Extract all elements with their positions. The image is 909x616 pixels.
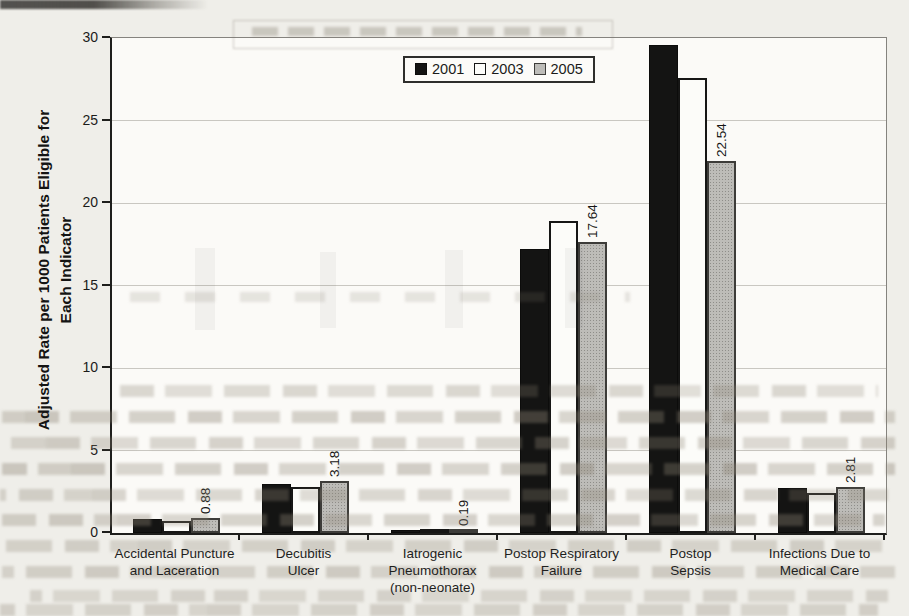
category-label-0: Accidental Punctureand Laceration (100, 545, 250, 579)
bar-2005-2 (449, 529, 478, 533)
bleed-through-text-artifact (2, 463, 895, 475)
plot-area: 0.883.180.1917.6422.542.81 (110, 37, 887, 535)
bar-label-2005-4: 22.54 (714, 123, 729, 157)
bleed-through-shape-artifact (195, 248, 215, 330)
bar-2001-4 (649, 45, 678, 533)
legend-swatch-2001-icon (415, 63, 427, 75)
bleed-through-text-artifact (0, 604, 878, 616)
category-label-2: IatrogenicPneumothorax(non-neonate) (358, 545, 508, 596)
bar-2001-2 (391, 530, 420, 533)
bar-2005-4 (707, 161, 736, 533)
gridline-10 (112, 368, 886, 369)
category-label-5: Infections Due toMedical Care (745, 545, 895, 579)
bleed-through-shape-artifact (252, 27, 582, 36)
legend-label-2001: 2001 (432, 61, 464, 77)
scan-edge-smudge (0, 0, 208, 9)
bleed-through-shape-artifact (320, 252, 336, 328)
y-axis-title-line2: Each Indicator (55, 60, 77, 480)
bleed-through-shape-artifact (565, 248, 583, 328)
scanned-figure-page: Adjusted Rate per 1000 Patients Eligible… (0, 0, 909, 616)
bleed-through-shape-artifact (445, 250, 463, 328)
legend-item-2005: 2005 (534, 61, 583, 77)
bar-label-2005-3: 17.64 (585, 204, 600, 238)
legend-item-2003: 2003 (474, 61, 523, 77)
bleed-through-text-artifact (0, 489, 888, 501)
chart-legend: 2001 2003 2005 (403, 56, 595, 83)
y-tick-30 (102, 36, 110, 38)
legend-item-2001: 2001 (415, 61, 464, 77)
bleed-through-shape-artifact (130, 292, 630, 302)
category-label-4: PostopSepsis (616, 545, 766, 579)
legend-swatch-2003-icon (474, 63, 486, 75)
gridline-5 (112, 450, 886, 451)
y-tick-20 (102, 201, 110, 203)
y-tick-0 (102, 531, 110, 533)
legend-label-2005: 2005 (551, 61, 583, 77)
y-tick-10 (102, 366, 110, 368)
gridline-15 (112, 285, 886, 286)
category-label-3: Postop RespiratoryFailure (487, 545, 637, 579)
y-tick-label-0: 0 (56, 524, 98, 540)
gridline-25 (112, 120, 886, 121)
y-tick-15 (102, 284, 110, 286)
bleed-through-text-artifact (0, 437, 895, 449)
gridline-20 (112, 203, 886, 204)
y-axis-title-line1: Adjusted Rate per 1000 Patients Eligible… (33, 60, 55, 480)
y-tick-25 (102, 119, 110, 121)
bleed-through-text-artifact (2, 514, 885, 526)
y-tick-label-30: 30 (56, 29, 98, 45)
legend-swatch-2005-icon (534, 63, 546, 75)
category-label-1: DecubitisUlcer (229, 545, 379, 579)
legend-label-2003: 2003 (491, 61, 523, 77)
bleed-through-text-artifact (2, 411, 895, 423)
bar-2003-2 (420, 529, 449, 533)
bleed-through-text-artifact (120, 385, 878, 397)
y-axis-title: Adjusted Rate per 1000 Patients Eligible… (33, 60, 77, 480)
